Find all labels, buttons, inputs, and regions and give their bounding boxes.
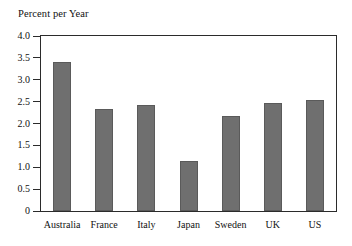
y-axis-tick [33,57,40,58]
y-axis-label: 2.0 [2,119,30,129]
y-axis-tick [33,167,40,168]
y-axis-tick [33,123,40,124]
bar [264,103,282,211]
y-axis-label: 1.0 [2,162,30,172]
y-axis-tick [33,79,40,80]
bar [180,161,198,211]
y-axis-tick [33,145,40,146]
x-axis-label: Italy [137,219,155,230]
plot-area [41,36,336,211]
y-axis-label: 1.5 [2,140,30,150]
y-axis-label: 3.0 [2,75,30,85]
bar-chart-figure: Percent per Year 4.03.53.02.52.01.51.00.… [0,0,352,246]
x-axis-label: Japan [177,219,200,230]
y-axis-label: 0.5 [2,184,30,194]
chart-title: Percent per Year [18,8,89,20]
x-axis-label: Sweden [215,219,247,230]
y-axis-label: 3.5 [2,53,30,63]
x-axis-label: Australia [44,219,81,230]
x-axis-label: France [91,219,118,230]
bar [95,109,113,211]
y-axis-tick [33,101,40,102]
plot-frame [40,35,337,212]
y-axis-tick [33,189,40,190]
bar [53,62,71,211]
bar [137,105,155,211]
y-axis-label: 4.0 [2,31,30,41]
bar [306,100,324,211]
y-axis-tick [33,211,40,212]
y-axis-tick [33,36,40,37]
y-axis-label: 2.5 [2,97,30,107]
x-axis-label: US [309,219,322,230]
y-axis-label: 0 [2,206,30,216]
bar [222,116,240,211]
x-axis-label: UK [266,219,280,230]
